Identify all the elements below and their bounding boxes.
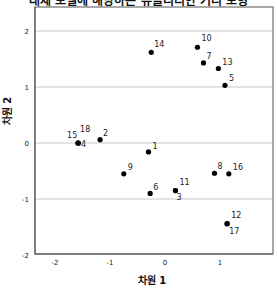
point-label-9: 9 bbox=[128, 163, 133, 172]
data-point-13 bbox=[216, 66, 221, 71]
point-label-2: 2 bbox=[103, 129, 108, 138]
x-axis-title: 차원 1 bbox=[138, 274, 166, 286]
data-point-1 bbox=[146, 149, 151, 154]
y-tick-label: 0 bbox=[25, 140, 29, 148]
point-label-5: 5 bbox=[229, 74, 234, 83]
point-label-18: 18 bbox=[80, 125, 90, 134]
point-labels: 123456789101112131415161718 bbox=[67, 34, 243, 235]
data-point-17 bbox=[225, 221, 230, 226]
point-label-10: 10 bbox=[201, 34, 211, 43]
gridlines bbox=[35, 31, 273, 199]
data-point-14 bbox=[149, 50, 154, 55]
data-point-8 bbox=[212, 171, 217, 176]
y-tick-label: 2 bbox=[25, 28, 29, 36]
data-point-10 bbox=[195, 45, 200, 50]
y-tick-label: -1 bbox=[22, 196, 29, 204]
data-point-5 bbox=[222, 83, 227, 88]
point-label-13: 13 bbox=[222, 58, 232, 67]
point-label-3: 3 bbox=[176, 193, 181, 202]
y-tick-labels: -2-1012 bbox=[22, 28, 29, 260]
y-tick-label: 1 bbox=[25, 84, 29, 92]
point-label-15: 15 bbox=[67, 131, 77, 140]
data-point-6 bbox=[148, 191, 153, 196]
y-axis-title: 차원 2 bbox=[1, 97, 13, 125]
y-tick-label: -2 bbox=[22, 252, 29, 260]
point-label-14: 14 bbox=[154, 40, 164, 49]
x-tick-label: -1 bbox=[107, 259, 114, 267]
point-label-8: 8 bbox=[218, 162, 223, 171]
data-point-9 bbox=[121, 171, 126, 176]
point-label-12: 12 bbox=[231, 211, 241, 220]
point-label-6: 6 bbox=[153, 183, 158, 192]
x-tick-labels: -2-101 bbox=[52, 259, 223, 267]
point-label-17: 17 bbox=[229, 227, 239, 236]
data-point-18 bbox=[76, 140, 81, 145]
point-label-16: 16 bbox=[233, 163, 243, 172]
data-point-2 bbox=[98, 137, 103, 142]
point-label-1: 1 bbox=[153, 142, 158, 151]
data-point-7 bbox=[201, 60, 206, 65]
point-label-4: 4 bbox=[81, 140, 86, 149]
scatter-chart: -2-101 -2-1012 1234567891011121314151617… bbox=[0, 0, 277, 289]
point-label-11: 11 bbox=[179, 178, 189, 187]
data-point-16 bbox=[226, 171, 231, 176]
x-tick-label: 0 bbox=[163, 259, 167, 267]
x-tick-label: 1 bbox=[218, 259, 222, 267]
x-tick-label: -2 bbox=[52, 259, 59, 267]
point-label-7: 7 bbox=[207, 52, 212, 61]
